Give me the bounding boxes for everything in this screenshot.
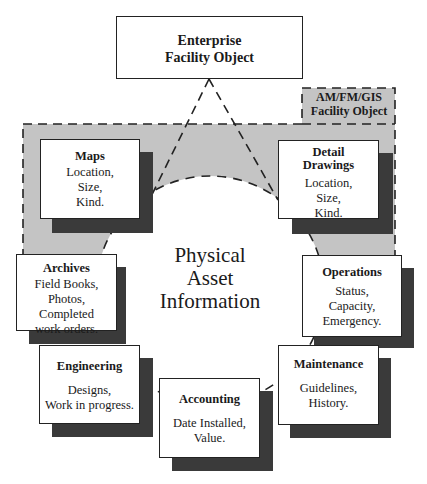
maps-line: Location, (41, 165, 139, 180)
maintenance-box: Maintenance Guidelines, History. (278, 345, 379, 425)
detail-drawings-title-line2: Drawings (279, 159, 378, 172)
accounting-line: Date Installed, (160, 416, 259, 431)
accounting-box: Accounting Date Installed, Value. (159, 378, 260, 458)
engineering-line: Designs, (40, 383, 139, 398)
accounting-line: Value. (160, 431, 259, 446)
detail-drawings-line: Location, (279, 176, 378, 191)
archives-line: Photos, (17, 292, 116, 307)
maintenance-title: Maintenance (279, 358, 378, 371)
detail-drawings-line: Size, (279, 191, 378, 206)
operations-line: Capacity, (303, 299, 401, 314)
engineering-line: Work in progress. (40, 398, 139, 413)
center-label-line2: Asset (130, 267, 290, 290)
operations-line: Emergency. (303, 314, 401, 329)
amfm-gis-label: AM/FM/GIS Facility Object (304, 90, 394, 118)
center-label-line1: Physical (130, 244, 290, 267)
operations-title: Operations (303, 266, 401, 279)
archives-line: Completed (17, 307, 116, 322)
amfm-label-line1: AM/FM/GIS (304, 90, 394, 104)
engineering-title: Engineering (40, 360, 139, 373)
enterprise-facility-object-box: Enterprise Facility Object (116, 16, 303, 79)
enterprise-title-line2: Facility Object (117, 49, 302, 66)
archives-line: work orders. (17, 322, 116, 337)
amfm-label-line2: Facility Object (304, 104, 394, 118)
maps-line: Kind. (41, 195, 139, 210)
physical-asset-information-label: Physical Asset Information (130, 244, 290, 313)
maintenance-line: Guidelines, (279, 381, 378, 396)
detail-drawings-box: Detail Drawings Location, Size, Kind. (278, 140, 379, 219)
enterprise-title-line1: Enterprise (117, 32, 302, 49)
maps-box: Maps Location, Size, Kind. (40, 139, 140, 219)
maps-line: Size, (41, 180, 139, 195)
archives-line: Field Books, (17, 277, 116, 292)
operations-box: Operations Status, Capacity, Emergency. (302, 255, 402, 337)
center-label-line3: Information (130, 290, 290, 313)
maintenance-line: History. (279, 396, 378, 411)
engineering-box: Engineering Designs, Work in progress. (39, 345, 140, 424)
maps-title: Maps (41, 150, 139, 163)
archives-box: Archives Field Books, Photos, Completed … (16, 254, 117, 331)
operations-line: Status, (303, 284, 401, 299)
accounting-title: Accounting (160, 393, 259, 406)
archives-title: Archives (17, 262, 116, 275)
detail-drawings-line: Kind. (279, 206, 378, 221)
